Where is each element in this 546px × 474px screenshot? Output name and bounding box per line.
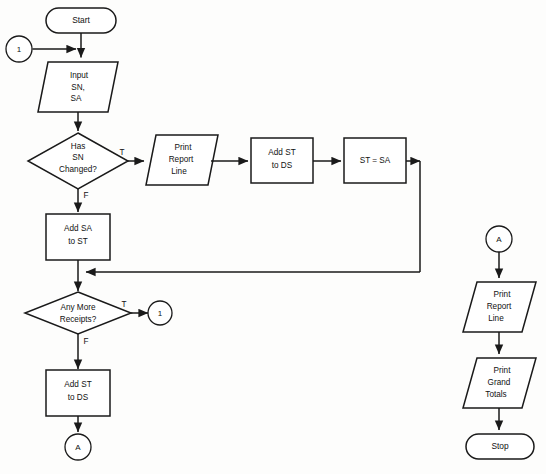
node-entry-connector-a-label: A <box>496 235 502 244</box>
node-exit-connector-a-label: A <box>75 443 81 452</box>
node-start: Start <box>46 8 116 33</box>
node-print-report-line-top: Print Report Line <box>146 135 218 185</box>
node-add-st-to-ds-bottom-line1: Add ST <box>64 380 91 389</box>
node-add-sa-to-st-line2: to ST <box>68 237 88 246</box>
node-print-grand-totals-line3: Totals <box>485 390 506 399</box>
edge-label-sn-changed-true: T <box>119 148 124 157</box>
flowchart-canvas: Start 1 Input SN, SA Has SN Changed? <box>0 0 546 474</box>
node-decision-any-more-receipts-line1: Any More <box>60 303 95 312</box>
node-stop: Stop <box>466 434 534 459</box>
node-print-report-line-top-line2: Report <box>169 155 194 164</box>
node-add-st-to-ds-top: Add ST to DS <box>251 138 313 183</box>
node-entry-connector-1-label: 1 <box>17 45 22 54</box>
node-print-report-line-top-line3: Line <box>171 167 187 176</box>
node-exit-connector-a: A <box>65 434 91 460</box>
node-input-sn-sa: Input SN, SA <box>38 62 118 112</box>
node-decision-sn-changed-line1: Has <box>71 142 86 151</box>
flowchart-diagram: Start 1 Input SN, SA Has SN Changed? <box>0 0 546 474</box>
node-input-sn-sa-line2: SN, <box>71 83 85 92</box>
node-entry-connector-a: A <box>486 226 512 252</box>
node-add-st-to-ds-bottom-line2: to DS <box>68 393 89 402</box>
node-input-sn-sa-line3: SA <box>71 94 82 103</box>
node-add-st-to-ds-top-line1: Add ST <box>268 148 295 157</box>
edge-label-any-more-true: T <box>121 300 126 309</box>
node-entry-connector-1: 1 <box>6 36 32 62</box>
node-add-sa-to-st: Add SA to ST <box>46 214 110 260</box>
node-print-report-line-right-line1: Print <box>494 290 512 299</box>
edge-label-sn-changed-false: F <box>83 191 88 200</box>
node-add-st-to-ds-top-line2: to DS <box>272 161 293 170</box>
node-decision-sn-changed: Has SN Changed? <box>28 133 128 189</box>
node-loop-connector-1: 1 <box>148 301 172 325</box>
edge-label-any-more-false: F <box>83 337 88 346</box>
node-loop-connector-1-label: 1 <box>158 309 163 318</box>
node-decision-sn-changed-line2: SN <box>72 153 83 162</box>
node-print-grand-totals-line1: Print <box>494 366 512 375</box>
node-input-sn-sa-line1: Input <box>70 71 89 80</box>
node-start-label: Start <box>72 15 90 25</box>
node-decision-sn-changed-line3: Changed? <box>59 165 97 174</box>
node-st-equals-sa: ST = SA <box>344 138 406 183</box>
node-stop-label: Stop <box>491 441 509 451</box>
node-print-report-line-right-line2: Report <box>487 302 512 311</box>
node-add-sa-to-st-line1: Add SA <box>64 224 92 233</box>
node-print-grand-totals: Print Grand Totals <box>463 358 536 408</box>
node-print-grand-totals-line2: Grand <box>488 378 511 387</box>
node-print-report-line-right: Print Report Line <box>463 282 536 332</box>
node-st-equals-sa-line1: ST = SA <box>360 156 391 165</box>
node-print-report-line-top-line1: Print <box>175 143 193 152</box>
node-add-st-to-ds-bottom: Add ST to DS <box>46 370 110 416</box>
node-decision-any-more-receipts: Any More Receipts? <box>25 292 131 334</box>
node-decision-any-more-receipts-line2: Receipts? <box>60 315 97 324</box>
node-print-report-line-right-line3: Line <box>488 314 504 323</box>
